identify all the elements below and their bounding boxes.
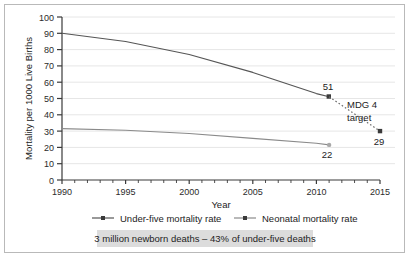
y-tick-label: 30	[44, 127, 54, 137]
y-tick-label: 90	[44, 29, 54, 39]
y-tick-label: 100	[39, 13, 54, 23]
series-marker-neonatal-2011	[327, 143, 331, 147]
y-axis-ticks	[57, 17, 62, 180]
x-tick-label: 1990	[52, 187, 72, 197]
y-tick-label: 60	[44, 78, 54, 88]
series-line-under-five	[62, 33, 329, 97]
y-tick-label: 20	[44, 143, 54, 153]
caption-text: 3 million newborn deaths – 43% of under-…	[94, 233, 316, 244]
x-axis-tick-labels: 1990 1995 2000 2005 2010 2015	[52, 187, 390, 197]
figure-container: 100 90 80 70 60 50 40 30 20 10 0 Mortali…	[0, 0, 409, 257]
x-axis-title: Year	[211, 199, 230, 210]
legend-marker-neonatal	[243, 216, 247, 220]
legend-item-under-five[interactable]: Under-five mortality rate	[92, 213, 221, 224]
legend-item-neonatal[interactable]: Neonatal mortality rate	[234, 213, 358, 224]
x-axis-minor-ticks	[62, 180, 380, 184]
x-tick-label: 2005	[243, 187, 263, 197]
y-tick-label: 40	[44, 110, 54, 120]
data-label-22: 22	[322, 149, 333, 160]
y-tick-label: 70	[44, 61, 54, 71]
legend-label-neonatal: Neonatal mortality rate	[262, 213, 358, 224]
series-marker-mdg4-2015	[378, 129, 382, 133]
y-axis-tick-labels: 100 90 80 70 60 50 40 30 20 10 0	[39, 13, 54, 186]
series-marker-under-five-2011	[327, 94, 331, 98]
y-axis-title: Mortality per 1000 Live Births	[23, 37, 34, 160]
data-label-51: 51	[323, 81, 334, 92]
y-tick-label: 80	[44, 45, 54, 55]
x-tick-label: 2010	[306, 187, 326, 197]
y-tick-label: 0	[49, 176, 54, 186]
x-tick-label: 1995	[116, 187, 136, 197]
annotation-mdg4-line1: MDG 4	[347, 99, 377, 110]
legend-marker-under-five	[101, 216, 105, 220]
x-tick-label: 2000	[179, 187, 199, 197]
legend-label-under-five: Under-five mortality rate	[120, 213, 221, 224]
y-tick-label: 50	[44, 94, 54, 104]
annotation-mdg4-line2: target	[347, 112, 372, 123]
chart-legend: Under-five mortality rate Neonatal morta…	[92, 213, 358, 224]
x-tick-label: 2015	[370, 187, 390, 197]
data-label-29: 29	[374, 136, 385, 147]
mortality-line-chart: 100 90 80 70 60 50 40 30 20 10 0 Mortali…	[0, 0, 409, 257]
gridlines-y	[62, 17, 395, 164]
y-tick-label: 10	[44, 159, 54, 169]
